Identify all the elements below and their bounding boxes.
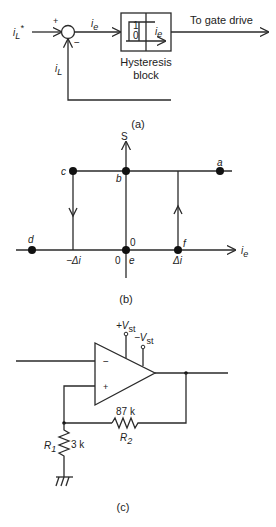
noninverting-input-wire: [64, 386, 95, 423]
label-neg-delta: −Δi: [66, 255, 82, 266]
point-d: [28, 246, 36, 254]
minus-sign: −: [74, 37, 80, 48]
x-axis-label: ie: [241, 245, 248, 259]
y-axis-label: S: [121, 131, 128, 142]
ground-icon: [56, 477, 73, 486]
inverting-sign: −: [103, 356, 109, 367]
noninverting-sign: +: [103, 382, 108, 392]
error-current-label: ie: [91, 18, 98, 32]
caption-c: (c): [117, 501, 130, 513]
point-e: [122, 246, 130, 254]
feedback-wire-right: [140, 373, 186, 423]
caption-b: (b): [119, 293, 132, 305]
r2-resistor-icon: [112, 418, 140, 428]
point-b: [122, 167, 130, 175]
panel-b-hysteresis-characteristic: S ie c b a d e f 0 0 −Δi Δi (b): [16, 131, 248, 305]
r2-value: 87 k: [116, 406, 136, 417]
r1-resistor-icon: [59, 423, 69, 477]
r1-value: 3 k: [71, 439, 85, 450]
block-caption-line1: Hysteresis: [120, 56, 172, 68]
vminus-terminal-icon: [141, 345, 145, 349]
feedback-current-label: iL: [55, 63, 62, 77]
label-d: d: [28, 234, 34, 245]
output-label: To gate drive: [190, 14, 253, 26]
opamp-symbol: [95, 343, 155, 405]
vminus-label: −Vst: [134, 332, 154, 346]
label-a: a: [217, 157, 223, 168]
panel-c-opamp-circuit: − + +Vst −Vst 87 k R2 R1 3 k (: [16, 320, 228, 513]
diagram-canvas: iL* + − ie 1 0 ie Hysteresis block To ga…: [0, 0, 276, 527]
panel-a-block-diagram: iL* + − ie 1 0 ie Hysteresis block To ga…: [13, 13, 268, 130]
label-c: c: [61, 166, 66, 177]
label-f: f: [183, 238, 187, 249]
r2-name: R2: [120, 432, 132, 446]
block-caption-line2: block: [133, 69, 159, 81]
caption-a: (a): [131, 118, 144, 130]
point-a: [216, 167, 224, 175]
label-e: e: [129, 255, 135, 266]
r1-name: R1: [44, 440, 56, 454]
block-ie-label: ie: [155, 26, 162, 39]
label-pos-delta: Δi: [172, 255, 183, 266]
block-level-zero: 0: [133, 30, 139, 41]
label-b: b: [116, 173, 122, 184]
point-f: [174, 246, 182, 254]
plus-sign: +: [53, 16, 58, 26]
vplus-terminal-icon: [124, 332, 128, 336]
reference-current-label: iL*: [13, 23, 24, 41]
summing-junction-icon: [62, 26, 75, 39]
point-c: [69, 167, 77, 175]
label-zero-top: 0: [130, 237, 136, 248]
label-zero-left: 0: [115, 255, 121, 266]
